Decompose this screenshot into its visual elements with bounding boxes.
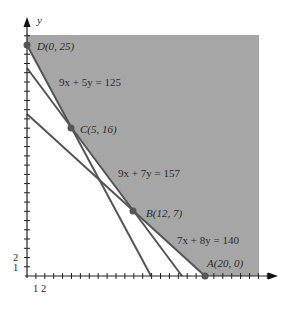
y-tick-label-1: 1 xyxy=(13,262,18,273)
point-D xyxy=(24,42,31,49)
point-D-label: D(0, 25) xyxy=(36,40,75,53)
linear-programming-graph: 1 2 2 1 y D(0, 25) C(5, 16) B(12, 7) A(2… xyxy=(0,0,293,311)
y-axis-arrow-icon xyxy=(24,17,31,27)
equation-label-9x-7y-157: 9x + 7y = 157 xyxy=(118,167,180,179)
point-B xyxy=(130,208,137,215)
x-axis-arrow-icon xyxy=(268,273,278,280)
point-C xyxy=(68,125,75,132)
equation-label-7x-8y-140: 7x + 8y = 140 xyxy=(177,234,239,246)
point-B-label: B(12, 7) xyxy=(146,207,182,220)
x-tick-label-2: 2 xyxy=(41,283,46,294)
y-axis-label: y xyxy=(36,14,42,26)
point-A xyxy=(202,273,209,280)
equation-label-9x-5y-125: 9x + 5y = 125 xyxy=(59,76,121,88)
point-A-label: A(20, 0) xyxy=(206,257,243,270)
x-tick-label-1: 1 xyxy=(33,283,38,294)
point-C-label: C(5, 16) xyxy=(80,123,117,136)
